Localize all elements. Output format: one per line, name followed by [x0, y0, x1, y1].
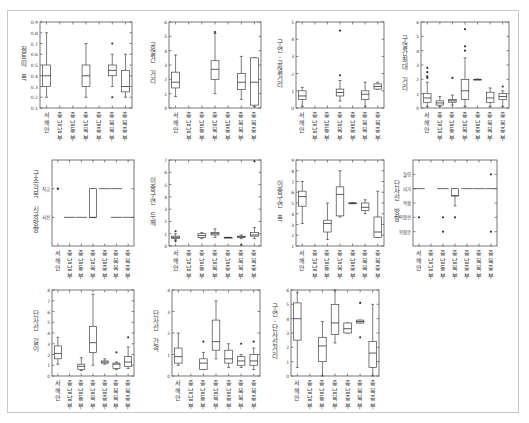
box: [299, 91, 307, 100]
box: [374, 217, 382, 237]
y-axis-label: 띠: [21, 59, 27, 68]
y-axis-label: 연: [150, 198, 156, 206]
x-tick-label: 충: [199, 249, 205, 256]
y-tick-label: 3: [416, 63, 419, 68]
y-axis-label: 연: [277, 201, 283, 209]
x-tick-label: 부: [464, 272, 470, 280]
x-tick-label: 남: [90, 257, 96, 264]
x-tick-label: 부: [440, 272, 446, 280]
x-tick-label: 중: [500, 126, 506, 133]
x-tick-label: 부: [488, 272, 494, 280]
x-tick-label: 부: [212, 272, 218, 280]
x-tick-label: 충: [475, 111, 481, 118]
x-tick-label: 부: [238, 402, 244, 410]
y-tick-label: 4: [164, 195, 167, 200]
box: [451, 189, 458, 196]
outlier-point: [174, 240, 176, 242]
box: [369, 342, 377, 368]
x-tick-label: 중: [350, 126, 356, 133]
chart-panel-p3: 012345서해안충남남부충남동부충남북부충남중부충북북부충북중부구연-공열거리: [274, 20, 390, 156]
x-tick-label: 남: [67, 394, 73, 401]
outlier-point: [115, 351, 117, 353]
x-tick-label: 부: [67, 272, 73, 280]
x-tick-label: 동: [78, 394, 84, 401]
y-tick-label: 복합: [403, 200, 411, 207]
x-tick-label: 부: [199, 272, 205, 280]
x-tick-label: 충: [370, 379, 376, 386]
box: [250, 58, 258, 105]
y-tick-label: 5: [416, 34, 419, 39]
y-tick-label: 1: [47, 363, 50, 368]
y-tick-label: 2: [291, 72, 294, 77]
x-tick-label: 충: [362, 111, 368, 118]
chart-panel-p10: 01234서해안충남남부충남동부충남북부충남중부충북북부충북중부단사선 간격: [150, 288, 266, 423]
outlier-point: [339, 74, 341, 76]
chart-panel-p9: 012345678서해안충남남부충남동부충남북부충남중부충북북부충북중부단사선 …: [30, 288, 140, 423]
x-tick-label: 충: [125, 249, 131, 256]
x-tick-label: 충: [78, 249, 84, 256]
x-tick-label: 남: [200, 387, 206, 394]
x-tick-label: 충: [113, 249, 119, 256]
x-tick-label: 중: [225, 126, 231, 133]
x-tick-label: 충: [449, 111, 455, 118]
y-axis-label: 선: [153, 323, 159, 332]
outlier-point: [253, 160, 255, 162]
x-tick-label: 충: [226, 379, 232, 386]
x-tick-label: 동: [199, 264, 205, 271]
x-tick-label: 남: [312, 119, 318, 126]
x-tick-label: 부: [312, 272, 318, 280]
x-tick-label: 충: [437, 111, 443, 118]
x-tick-label: 충: [332, 379, 338, 386]
y-tick-label: 7: [164, 158, 167, 163]
outlier-point: [111, 96, 113, 98]
x-tick-label: 남: [319, 387, 325, 394]
x-tick-label: 충: [337, 111, 343, 118]
box: [175, 348, 183, 363]
x-tick-label: 부: [109, 134, 115, 142]
outlier-point: [253, 341, 255, 343]
y-axis-label: 폭: [277, 215, 283, 223]
x-tick-label: 충: [109, 111, 115, 118]
x-tick-label: 중: [251, 264, 257, 271]
y-tick-label: 4: [286, 317, 289, 322]
y-tick-label: 0.8: [31, 31, 38, 36]
x-tick-label: 충: [324, 111, 330, 118]
x-tick-label: 충: [337, 249, 343, 256]
x-tick-label: 남: [188, 387, 194, 394]
x-tick-label: 부: [90, 402, 96, 410]
x-tick-label: 중: [226, 394, 232, 401]
x-tick-label: 안: [173, 264, 179, 271]
y-tick-label: 8: [291, 169, 294, 174]
y-tick-label: 4: [291, 37, 294, 42]
y-axis-label: 향: [394, 214, 400, 223]
x-tick-label: 부: [324, 134, 330, 142]
x-tick-label: 충: [238, 379, 244, 386]
y-tick-label: 0.9: [31, 20, 38, 25]
x-tick-label: 부: [487, 134, 493, 142]
x-tick-label: 남: [324, 257, 330, 264]
box: [121, 70, 129, 92]
y-tick-label: 0.4: [31, 74, 38, 79]
x-tick-label: 충: [345, 379, 351, 386]
y-tick-label: 4: [164, 49, 167, 54]
x-tick-label: 동: [324, 126, 330, 133]
y-tick-label: 3: [286, 331, 289, 336]
x-tick-label: 충: [319, 379, 325, 386]
x-tick-label: 부: [337, 134, 343, 142]
x-tick-label: 남: [102, 257, 108, 264]
x-tick-label: 남: [67, 387, 73, 394]
outlier-point: [490, 173, 492, 175]
chart-panel-p5: 사선직교서해안충남남부충남동부충남북부충남중부충북북부충북중부구조각목 시공방향: [30, 158, 140, 294]
x-tick-label: 동: [319, 394, 325, 401]
outlier-point: [359, 302, 361, 304]
outlier-point: [418, 216, 420, 218]
x-tick-label: 안: [55, 264, 61, 271]
x-tick-label: 충: [102, 379, 108, 386]
x-tick-label: 중: [370, 394, 376, 401]
x-tick-label: 충: [238, 111, 244, 118]
x-tick-label: 중: [350, 264, 356, 271]
y-tick-label: 0.7: [31, 42, 38, 47]
box: [299, 191, 307, 206]
x-tick-label: 부: [337, 272, 343, 280]
y-tick-label: 1: [291, 244, 294, 249]
